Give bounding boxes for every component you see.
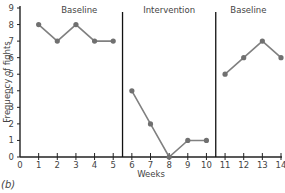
x-tick-label: 4 <box>92 160 97 170</box>
data-point <box>55 39 60 44</box>
x-tick-label: 14 <box>276 160 285 170</box>
phase-label: Intervention <box>143 5 195 15</box>
data-point <box>241 55 246 60</box>
y-tick-label: 9 <box>9 3 14 13</box>
data-point <box>260 39 265 44</box>
x-tick-label: 6 <box>129 160 134 170</box>
x-axis-ticks: 01234567891011121314 <box>17 153 285 170</box>
data-series <box>36 22 284 160</box>
x-tick-label: 3 <box>73 160 78 170</box>
x-tick-label: 2 <box>55 160 60 170</box>
x-tick-label: 5 <box>111 160 116 170</box>
panel-label: (b) <box>1 179 15 190</box>
series-line <box>132 91 207 157</box>
y-tick-label: 8 <box>9 20 14 30</box>
x-axis-label: Weeks <box>137 169 165 179</box>
data-point <box>92 39 97 44</box>
data-point <box>185 138 190 143</box>
y-axis-label: Frequency of fights <box>2 41 12 123</box>
x-tick-label: 10 <box>201 160 212 170</box>
x-tick-label: 12 <box>238 160 249 170</box>
data-point <box>129 88 134 93</box>
data-point <box>278 55 283 60</box>
data-point <box>36 22 41 27</box>
y-tick-label: 0 <box>9 152 14 162</box>
y-tick-label: 1 <box>9 135 14 145</box>
x-tick-label: 0 <box>17 160 22 170</box>
data-point <box>167 154 172 159</box>
x-tick-label: 9 <box>185 160 190 170</box>
series-line <box>225 41 281 74</box>
x-tick-label: 11 <box>220 160 231 170</box>
x-tick-label: 1 <box>36 160 41 170</box>
phase-labels: BaselineInterventionBaseline <box>61 5 266 15</box>
data-point <box>111 39 116 44</box>
data-point <box>222 72 227 77</box>
phase-label: Baseline <box>61 5 97 15</box>
phase-label: Baseline <box>230 5 266 15</box>
x-tick-label: 13 <box>257 160 268 170</box>
data-point <box>204 138 209 143</box>
data-point <box>148 121 153 126</box>
x-tick-label: 8 <box>166 160 171 170</box>
data-point <box>73 22 78 27</box>
phase-lines <box>123 12 216 157</box>
chart: 0123456789 01234567891011121314 Baseline… <box>0 0 285 193</box>
